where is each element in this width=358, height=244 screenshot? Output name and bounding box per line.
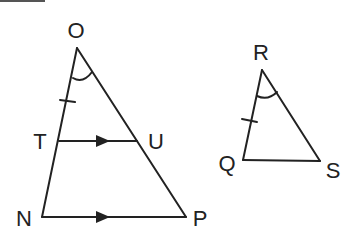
label-o: O (67, 18, 84, 43)
tick-mark-icon-rq (242, 119, 257, 122)
label-u: U (148, 129, 164, 154)
label-p: P (193, 206, 208, 231)
label-t: T (33, 129, 46, 154)
angle-arc-icon-r (257, 92, 277, 98)
label-s: S (326, 158, 341, 183)
parallel-arrow-icon-np (96, 211, 110, 223)
geometry-diagram: O N P T U R Q S (0, 0, 358, 244)
tick-mark-icon-ot (60, 100, 75, 102)
angle-arc-icon-o (73, 72, 92, 80)
label-n: N (16, 206, 32, 231)
segment-qs (243, 160, 320, 161)
parallel-arrow-icon-tu (96, 135, 110, 147)
segment-rs (262, 70, 320, 161)
segment-rq (243, 70, 262, 160)
label-r: R (253, 40, 269, 65)
triangle-rqs: R Q S (218, 40, 340, 183)
label-q: Q (218, 151, 235, 176)
segment-on (42, 48, 77, 217)
triangle-onp: O N P T U (16, 18, 207, 231)
segment-op (77, 48, 186, 217)
